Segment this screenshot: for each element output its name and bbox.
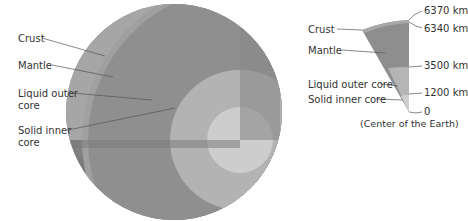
depth-1200: 1200 km [424,87,468,99]
label-mantle: Mantle [18,60,52,72]
wedge-label-solid-inner-core: Solid inner core [308,94,386,106]
cutaway-section [60,0,398,221]
label-liquid-outer-core-2: core [18,100,40,112]
depth-0: 0 [424,106,430,118]
label-solid-inner-core-2: core [18,137,40,149]
label-crust: Crust [18,33,45,45]
depth-6370: 6370 km [424,5,468,17]
depth-6340: 6340 km [424,23,468,35]
depth-3500: 3500 km [424,60,468,72]
wedge-label-liquid-outer-core: Liquid outer core [308,79,393,91]
wedge-label-crust: Crust [308,24,335,36]
center-of-earth-caption: (Center of the Earth) [360,118,459,130]
label-solid-inner-core-1: Solid inner [18,125,71,137]
wedge-label-mantle: Mantle [308,45,342,57]
earth-globe [60,0,398,221]
label-liquid-outer-core-1: Liquid outer [18,88,78,100]
